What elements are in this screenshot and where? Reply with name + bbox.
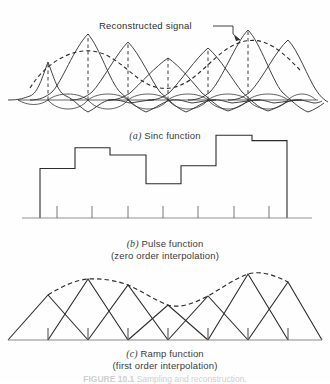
caption-c-title: Ramp function — [141, 348, 204, 359]
figure-number-text: Sampling and reconstruction. — [134, 374, 246, 384]
ramp-kernel-7 — [248, 282, 322, 340]
sinc-kernel-5 — [148, 48, 322, 111]
caption-pulse-function: (b) Pulse function (zero order interpola… — [0, 238, 330, 261]
caption-ramp-function: (c) Ramp function (first order interpola… — [0, 348, 330, 371]
sinc-lobe-left — [18, 100, 48, 105]
pulse-staircase — [40, 135, 287, 218]
reconstructed-signal-label: Reconstructed signal — [99, 20, 192, 31]
ramp-reconstructed-signal-curve — [48, 273, 288, 306]
figure-number-caption: FIGURE 10.1 Sampling and reconstruction. — [0, 374, 330, 384]
ramp-function-plot — [0, 268, 330, 360]
caption-b-title: Pulse function — [142, 238, 204, 249]
caption-c-letter: (c) — [126, 348, 138, 359]
annotation-arrowhead — [234, 35, 240, 41]
sinc-lobe-upper-7 — [288, 94, 316, 100]
caption-b-letter: (b) — [127, 238, 139, 249]
caption-c-subtitle: (first order interpolation) — [0, 360, 330, 372]
figure-number-label: FIGURE 10.1 — [83, 374, 134, 384]
panel-sinc-function: Reconstructed signal — [0, 0, 330, 128]
sinc-function-plot: Reconstructed signal — [0, 0, 330, 128]
panel-ramp-function — [0, 268, 330, 360]
caption-b-subtitle: (zero order interpolation) — [0, 250, 330, 262]
sinc-lobe-upper-6 — [248, 94, 288, 100]
